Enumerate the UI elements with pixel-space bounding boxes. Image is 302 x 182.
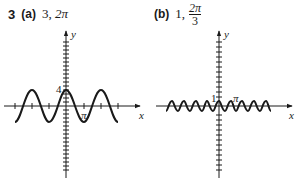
y-axis-label-a: y — [70, 28, 76, 40]
graph-a: y x 4 π — [4, 28, 144, 178]
x-tick-label-b: π — [233, 92, 239, 104]
y-axis-label-b: y — [223, 28, 229, 40]
y-tick-label-b: 1 — [211, 92, 217, 104]
graphs-canvas: y x 4 π y x 1 π — [0, 0, 302, 182]
y-tick-label-a: 4 — [56, 83, 62, 95]
graph-b: y x 1 π — [156, 28, 294, 178]
x-axis-label-a: x — [138, 109, 144, 121]
x-tick-label-a: π — [81, 109, 87, 121]
x-axis-label-b: x — [288, 109, 294, 121]
